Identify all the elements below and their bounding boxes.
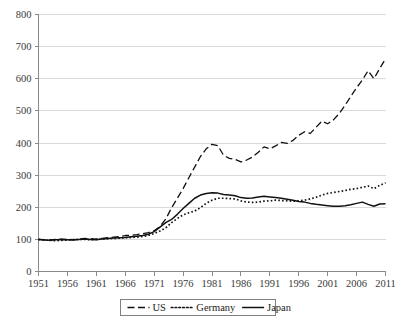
chart-legend: USGermanyJapan <box>121 300 292 316</box>
x-tick-label: 1986 <box>230 278 251 289</box>
x-tick-label: 2006 <box>346 278 367 289</box>
y-tick-label: 500 <box>16 105 32 116</box>
x-axis-tick-labels: 1951195619611966197119761981198619911996… <box>28 278 395 289</box>
legend-label-us: US <box>153 302 167 313</box>
y-tick-label: 300 <box>16 170 32 181</box>
y-axis-tick-labels: 0100200300400500600700800 <box>16 9 32 277</box>
data-series-group <box>39 59 386 241</box>
x-tick-label: 1981 <box>202 278 223 289</box>
x-tick-label: 2011 <box>375 278 395 289</box>
legend-label-germany: Germany <box>196 302 236 313</box>
y-tick-label: 700 <box>16 41 32 52</box>
y-tick-label: 100 <box>16 234 32 245</box>
x-tick-label: 1961 <box>86 278 107 289</box>
x-tick-label: 1996 <box>288 278 309 289</box>
x-tick-label: 2001 <box>317 278 338 289</box>
x-tick-label: 1971 <box>144 278 165 289</box>
x-tick-label: 1951 <box>28 278 49 289</box>
x-tick-label: 1991 <box>259 278 280 289</box>
x-tick-label: 1966 <box>115 278 136 289</box>
x-tick-label: 1956 <box>57 278 78 289</box>
y-tick-label: 800 <box>16 9 32 20</box>
series-line-germany <box>39 183 386 241</box>
series-line-us <box>39 59 386 240</box>
chart-canvas: 0100200300400500600700800 19511956196119… <box>0 0 395 323</box>
line-chart: 0100200300400500600700800 19511956196119… <box>0 0 395 323</box>
y-tick-label: 400 <box>16 138 32 149</box>
axes-group <box>35 15 386 276</box>
x-tick-label: 1976 <box>173 278 194 289</box>
y-tick-label: 0 <box>26 266 31 277</box>
y-tick-label: 200 <box>16 202 32 213</box>
legend-label-japan: Japan <box>267 302 292 313</box>
y-tick-label: 600 <box>16 73 32 84</box>
